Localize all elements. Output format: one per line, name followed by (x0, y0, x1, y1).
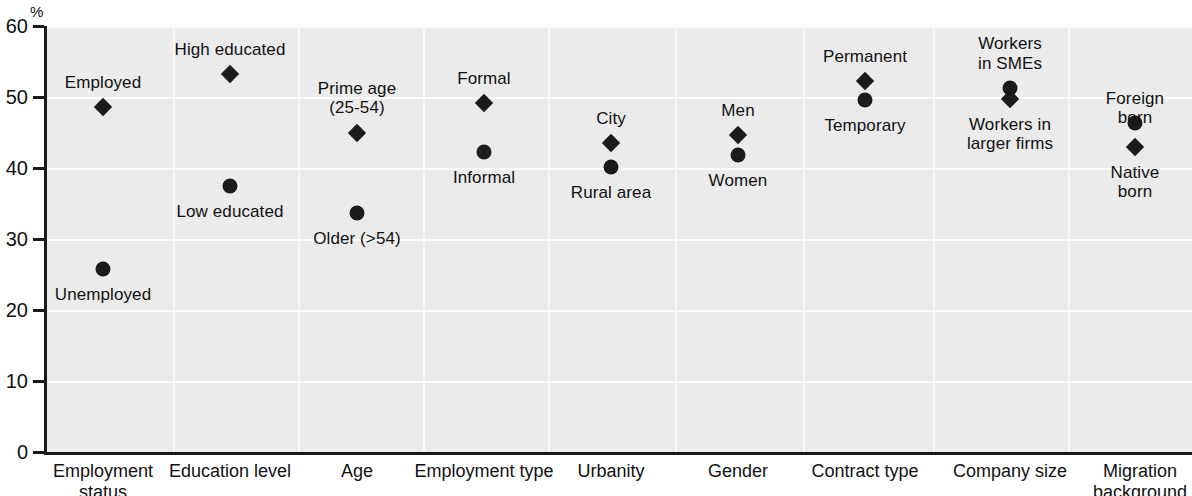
data-point-label: Men (721, 101, 754, 120)
group-separator-gridline (173, 26, 175, 452)
y-axis-tick-label: 10 (0, 371, 28, 391)
x-axis-category-label: Age (341, 461, 373, 482)
data-point-label: Formal (457, 69, 511, 88)
horizontal-gridline (47, 97, 1192, 99)
data-point-label: Workers in SMEs (978, 34, 1042, 72)
y-axis-tick (33, 380, 44, 383)
y-axis-tick-label: 40 (0, 158, 28, 178)
plot-panel-inner (47, 26, 1192, 452)
data-point-label: Unemployed (55, 285, 151, 304)
x-axis-category-label: Company size (953, 461, 1067, 482)
x-axis-category-label: Education level (169, 461, 291, 482)
group-separator-gridline (1068, 26, 1070, 452)
y-axis-tick-label: 60 (0, 16, 28, 36)
data-point-label: Permanent (823, 47, 907, 66)
data-point-label: Employed (65, 73, 141, 92)
x-axis-category-label: Employment type (414, 461, 553, 482)
y-axis-unit-label: % (30, 4, 43, 19)
data-point-circle (223, 178, 238, 193)
y-axis-tick-label: 50 (0, 87, 28, 107)
data-point-label: Low educated (176, 202, 283, 221)
y-axis-tick-label: 0 (0, 442, 28, 462)
data-point-circle (96, 261, 111, 276)
data-point-label: Foreign born (1106, 89, 1164, 127)
x-axis-category-label: Migration background (1093, 461, 1187, 496)
y-axis-tick (33, 451, 44, 454)
data-point-label: Prime age (25-54) (318, 79, 396, 117)
group-separator-gridline (423, 26, 425, 452)
x-axis-category-label: Urbanity (577, 461, 644, 482)
data-point-label: Older (>54) (313, 229, 401, 248)
plot-area (44, 26, 1192, 455)
y-axis-tick (33, 25, 44, 28)
data-point-label: Temporary (824, 116, 905, 135)
horizontal-gridline (47, 168, 1192, 170)
horizontal-gridline (47, 239, 1192, 241)
data-point-label: Rural area (571, 183, 651, 202)
group-separator-gridline (933, 26, 935, 452)
y-axis-tick (33, 96, 44, 99)
y-axis-tick (33, 238, 44, 241)
y-axis-tick-label: 30 (0, 229, 28, 249)
data-point-circle (604, 160, 619, 175)
x-axis-category-label: Gender (708, 461, 768, 482)
data-point-circle (477, 144, 492, 159)
group-separator-gridline (298, 26, 300, 452)
data-point-label: Native born (1107, 163, 1164, 201)
data-point-label: Women (709, 171, 768, 190)
data-point-circle (350, 205, 365, 220)
data-point-label: High educated (175, 40, 286, 59)
horizontal-gridline (47, 26, 1192, 28)
group-separator-gridline (675, 26, 677, 452)
y-axis-tick (33, 167, 44, 170)
x-axis-category-label: Employment status (53, 461, 153, 496)
group-separator-gridline (803, 26, 805, 452)
data-point-label: Informal (453, 168, 515, 187)
y-axis-tick (33, 309, 44, 312)
data-point-circle (731, 148, 746, 163)
chart-container: % 0102030405060 EmployedUnemployedHigh e… (0, 0, 1192, 496)
data-point-label: Workers in larger firms (967, 115, 1053, 153)
x-axis-category-label: Contract type (811, 461, 918, 482)
y-axis-tick-label: 20 (0, 300, 28, 320)
group-separator-gridline (548, 26, 550, 452)
horizontal-gridline (47, 310, 1192, 312)
horizontal-gridline (47, 381, 1192, 383)
data-point-circle (858, 92, 873, 107)
data-point-label: City (596, 109, 626, 128)
